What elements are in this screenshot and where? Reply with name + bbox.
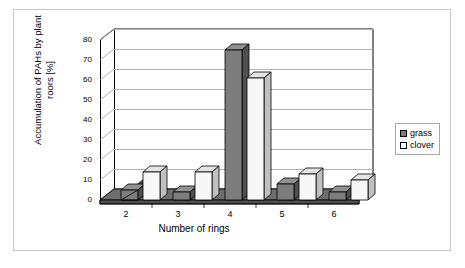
y-axis-title-line2: roors [%] <box>44 10 56 150</box>
y-axis-title: Accumulation of PAHs by plant roors [%] <box>32 10 68 150</box>
xtick-label-3: 3 <box>163 209 193 219</box>
x-axis-title: Number of rings <box>14 223 374 234</box>
legend-label-clover: clover <box>410 139 434 151</box>
xtick-label-2: 2 <box>111 209 141 219</box>
xtick-label-6: 6 <box>319 209 349 219</box>
y-axis-title-line1: Accumulation of PAHs by plant <box>32 10 44 150</box>
xtick-label-5: 5 <box>267 209 297 219</box>
legend-item-clover[interactable]: clover <box>400 139 434 151</box>
chart-frame: 0 10 20 30 40 50 60 70 80 <box>13 9 451 251</box>
clover-swatch-icon <box>400 142 407 149</box>
chart-legend: grass clover <box>395 123 440 155</box>
legend-item-grass[interactable]: grass <box>400 127 434 139</box>
xtick-label-4: 4 <box>215 209 245 219</box>
grass-swatch-icon <box>400 130 407 137</box>
legend-label-grass: grass <box>410 127 432 139</box>
plot-area: 0 10 20 30 40 50 60 70 80 <box>14 10 452 252</box>
